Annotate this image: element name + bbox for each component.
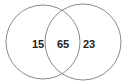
left-only-count: 15 bbox=[32, 39, 44, 50]
right-only-count: 23 bbox=[83, 39, 95, 50]
intersection-count: 65 bbox=[57, 39, 69, 50]
